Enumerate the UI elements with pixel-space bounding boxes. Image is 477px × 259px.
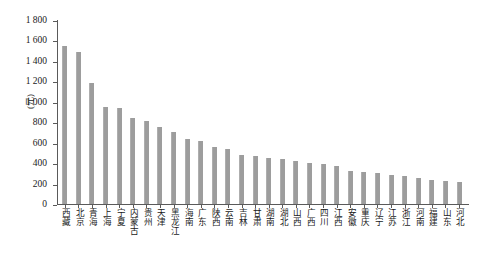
- bar-slot: [371, 20, 385, 204]
- bar-slot: [126, 20, 140, 204]
- x-label-slot: 重庆: [357, 208, 371, 259]
- bar: [402, 176, 407, 204]
- bar-series: [58, 20, 469, 204]
- x-axis-label: 贵州: [142, 208, 151, 259]
- y-axis-tick-label: 800: [33, 118, 47, 128]
- y-axis-tick-label: 1 800: [26, 16, 47, 26]
- bar: [375, 173, 380, 204]
- bar: [171, 132, 176, 204]
- x-label-slot: 辽宁: [371, 208, 385, 259]
- x-axis-label: 湖南: [264, 208, 273, 259]
- bar-slot: [452, 20, 466, 204]
- bar-slot: [262, 20, 276, 204]
- x-label-slot: 安徽: [343, 208, 357, 259]
- bar: [117, 108, 122, 204]
- x-label-slot: 黑龙江: [167, 208, 181, 259]
- x-axis-label: 黑龙江: [169, 208, 178, 259]
- y-axis-tick: 0: [53, 205, 57, 206]
- bar: [280, 159, 285, 204]
- y-axis-tick-label: 0: [42, 200, 47, 210]
- x-axis-label: 宁夏: [115, 208, 124, 259]
- bar: [103, 107, 108, 204]
- x-label-slot: 四川: [316, 208, 330, 259]
- bar: [293, 161, 298, 204]
- x-label-slot: 山东: [439, 208, 453, 259]
- bar-slot: [194, 20, 208, 204]
- x-label-slot: 上海: [99, 208, 113, 259]
- x-label-slot: 山西: [289, 208, 303, 259]
- x-axis-label: 甘肃: [251, 208, 260, 259]
- x-label-slot: 河北: [452, 208, 466, 259]
- bar-slot: [140, 20, 154, 204]
- bar-slot: [58, 20, 72, 204]
- x-axis-label: 云南: [224, 208, 233, 259]
- bar-slot: [180, 20, 194, 204]
- x-axis-label: 北京: [74, 208, 83, 259]
- x-axis-label: 海南: [183, 208, 192, 259]
- bar: [457, 182, 462, 205]
- bar: [389, 175, 394, 204]
- bar-slot: [208, 20, 222, 204]
- y-axis-tick: 1 200: [53, 82, 57, 83]
- x-axis-label: 浙江: [400, 208, 409, 259]
- bar: [443, 181, 448, 205]
- x-axis-label: 江苏: [387, 208, 396, 259]
- bar-slot: [425, 20, 439, 204]
- x-axis-label: 河南: [414, 208, 423, 259]
- x-label-slot: 吉林: [235, 208, 249, 259]
- y-axis-tick-label: 200: [33, 180, 47, 190]
- bar: [429, 180, 434, 205]
- bar-slot: [398, 20, 412, 204]
- bar: [212, 147, 217, 204]
- bar: [361, 172, 366, 204]
- bar-slot: [276, 20, 290, 204]
- bar-chart: (元) 1 8001 6001 4001 2001 00080060040020…: [0, 0, 477, 259]
- x-axis-label: 吉林: [237, 208, 246, 259]
- x-label-slot: 湖北: [276, 208, 290, 259]
- bar-slot: [112, 20, 126, 204]
- x-axis-label: 上海: [101, 208, 110, 259]
- x-axis-label: 广西: [305, 208, 314, 259]
- bar: [62, 46, 67, 204]
- x-axis-label: 江西: [332, 208, 341, 259]
- bar-slot: [167, 20, 181, 204]
- bar-slot: [303, 20, 317, 204]
- bar: [185, 139, 190, 204]
- x-axis-label: 西藏: [60, 208, 69, 259]
- x-axis-label: 陕西: [210, 208, 219, 259]
- x-axis-label: 重庆: [359, 208, 368, 259]
- bar-slot: [235, 20, 249, 204]
- y-axis-tick: 1 400: [53, 62, 57, 63]
- y-axis-tick-label: 1 000: [26, 98, 47, 108]
- bar-slot: [384, 20, 398, 204]
- x-label-slot: 贵州: [140, 208, 154, 259]
- y-axis-tick: 400: [53, 164, 57, 165]
- bar: [76, 52, 81, 204]
- bar: [321, 164, 326, 204]
- bar: [239, 155, 244, 204]
- x-axis-label: 福建: [427, 208, 436, 259]
- x-axis-labels: 西藏北京青海上海宁夏内蒙古贵州天津黑龙江海南广东陕西云南吉林甘肃湖南湖北山西广西…: [58, 208, 470, 259]
- y-axis-tick-label: 400: [33, 159, 47, 169]
- x-label-slot: 河南: [411, 208, 425, 259]
- x-axis-label: 安徽: [346, 208, 355, 259]
- bar: [130, 118, 135, 204]
- x-axis-label: 湖北: [278, 208, 287, 259]
- x-axis-label: 四川: [319, 208, 328, 259]
- x-label-slot: 天津: [153, 208, 167, 259]
- x-axis-label: 河北: [455, 208, 464, 259]
- x-label-slot: 江西: [330, 208, 344, 259]
- bar-slot: [439, 20, 453, 204]
- bar-slot: [248, 20, 262, 204]
- y-axis-tick-label: 1 600: [26, 37, 47, 47]
- y-axis-tick: 1 600: [53, 41, 57, 42]
- bar: [157, 127, 162, 204]
- x-axis-label: 山西: [291, 208, 300, 259]
- bar-slot: [99, 20, 113, 204]
- x-label-slot: 宁夏: [112, 208, 126, 259]
- bar: [144, 121, 149, 204]
- bar-slot: [289, 20, 303, 204]
- plot-area: 1 8001 6001 4001 2001 0008006004002000: [57, 20, 469, 205]
- bar-slot: [72, 20, 86, 204]
- x-label-slot: 甘肃: [248, 208, 262, 259]
